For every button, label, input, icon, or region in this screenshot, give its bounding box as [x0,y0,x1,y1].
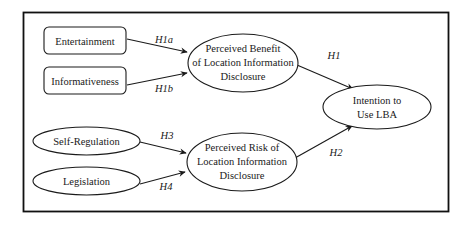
node-ellipse [323,85,431,129]
edge-label-h2: H2 [329,147,344,158]
node-label-line-1: Intention to [353,95,402,106]
node-label: Legislation [63,176,111,187]
node-informativeness: Informativeness [44,67,126,94]
node-label-line-1: Perceived Benefit [206,43,281,54]
research-model-diagram: H1a H1b H1 H3 H4 H2 Entertainment Inform… [0,0,471,225]
edge-h1 [297,65,353,89]
node-label-line-3: Disclosure [220,170,265,181]
node-label-line-2: Location Information [197,156,288,167]
node-label-line-1: Perceived Risk of [205,142,280,153]
node-label-line-2: Use LBA [357,109,397,120]
node-label: Informativeness [51,76,119,87]
edge-h3 [140,142,186,153]
node-label-line-2: of Location Information [192,57,294,68]
edge-label-h1a: H1a [154,34,173,45]
node-perceived-benefit: Perceived Benefit of Location Informatio… [188,34,298,92]
node-self-regulation: Self-Regulation [33,127,140,155]
node-intention: Intention to Use LBA [323,85,431,129]
node-perceived-risk: Perceived Risk of Location Information D… [187,133,297,191]
node-entertainment: Entertainment [44,27,126,54]
edge-h2 [295,126,352,158]
node-label: Entertainment [55,36,115,47]
edge-label-h3: H3 [160,130,174,141]
node-legislation: Legislation [33,167,140,195]
edge-label-h1: H1 [327,50,341,61]
node-label-line-3: Disclosure [221,71,266,82]
edge-label-h1b: H1b [154,83,173,94]
node-label: Self-Regulation [53,136,120,147]
edge-label-h4: H4 [159,181,174,192]
